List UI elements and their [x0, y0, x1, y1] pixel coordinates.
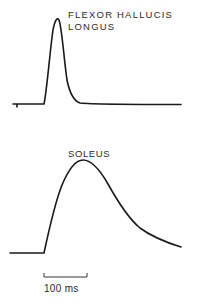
scale-bar-label: 100 ms: [44, 283, 79, 294]
fhl-trace: [13, 19, 181, 107]
soleus-label: SOLEUS: [68, 148, 110, 159]
soleus-trace: [10, 160, 181, 253]
fhl-label-line2: LONGUS: [68, 21, 115, 32]
fhl-label-line1: FLEXOR HALLUCIS: [68, 9, 173, 20]
scale-bar: [44, 273, 87, 277]
